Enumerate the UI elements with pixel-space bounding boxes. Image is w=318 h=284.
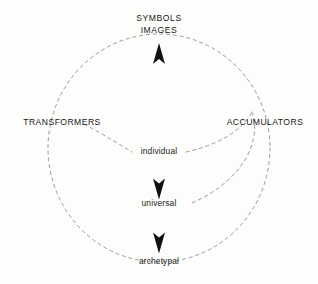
diagram-canvas: SYMBOLS IMAGES TRANSFORMERS ACCUMULATORS…	[0, 0, 318, 284]
axis-label-accumulators: ACCUMULATORS	[227, 118, 304, 128]
title-line-images: IMAGES	[136, 25, 181, 37]
title-line-symbols: SYMBOLS	[136, 13, 181, 25]
arrow-up-symbols-icon	[151, 43, 167, 65]
center-label-archetypal: archetypal	[139, 257, 179, 267]
axis-label-transformers: TRANSFORMERS	[23, 118, 101, 128]
arrow-down-universal-icon	[151, 179, 167, 200]
center-label-individual: individual	[141, 147, 177, 157]
arrow-down-archetypal-icon	[151, 233, 167, 254]
transformers-to-individual-arc	[84, 124, 132, 152]
title-symbols-images: SYMBOLS IMAGES	[136, 13, 181, 36]
center-label-universal: universal	[142, 199, 177, 209]
